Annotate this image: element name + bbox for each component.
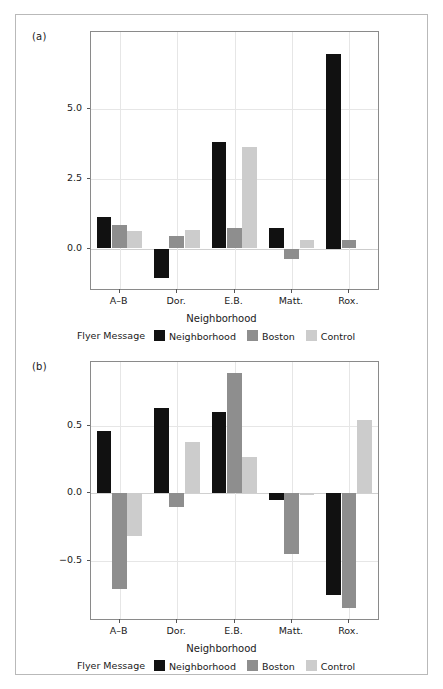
- x-axis-tick-mark: [348, 289, 349, 293]
- x-axis-tick-label: Matt.: [261, 625, 321, 636]
- bar: [300, 493, 315, 494]
- bar: [127, 231, 142, 248]
- legend-swatch-icon: [306, 330, 317, 341]
- bar: [185, 230, 200, 248]
- legend-entry: Boston: [247, 660, 295, 672]
- bar: [242, 457, 257, 494]
- bar: [212, 142, 227, 249]
- bar: [154, 249, 169, 278]
- legend-swatch-icon: [306, 660, 317, 671]
- bar: [342, 240, 357, 248]
- gridline-vertical: [349, 32, 350, 289]
- bar: [185, 442, 200, 493]
- y-axis-tick-label: 0.5: [42, 419, 82, 430]
- legend-label: Control: [321, 331, 355, 342]
- legend-label: Neighborhood: [169, 661, 236, 672]
- y-axis-tick-label: 2.5: [42, 172, 82, 183]
- y-axis-tick-mark: [87, 108, 90, 109]
- bar: [212, 412, 227, 493]
- x-axis-tick-mark: [291, 619, 292, 623]
- gridline-vertical: [292, 362, 293, 619]
- legend-entry: Control: [306, 660, 355, 672]
- x-axis-tick-label: E.B.: [204, 625, 264, 636]
- x-axis-title-b: Neighborhood: [16, 643, 427, 654]
- chart-panel-a: (a) 0.02.55.0A–BDor.E.B.Matt.Rox. Neighb…: [16, 15, 427, 343]
- bar: [300, 240, 315, 248]
- legend-label: Boston: [262, 661, 295, 672]
- bar: [284, 249, 299, 259]
- bar: [342, 493, 357, 608]
- legend-label: Boston: [262, 331, 295, 342]
- figure-panel-container: (a) 0.02.55.0A–BDor.E.B.Matt.Rox. Neighb…: [15, 14, 428, 675]
- legend-title: Flyer Message: [77, 660, 145, 671]
- legend-swatch-icon: [247, 660, 258, 671]
- bar: [97, 431, 112, 493]
- legend-swatch-icon: [154, 660, 165, 671]
- x-axis-tick-label: A–B: [89, 295, 149, 306]
- bar: [357, 249, 372, 250]
- x-axis-tick-label: E.B.: [204, 295, 264, 306]
- x-axis-tick-label: Dor.: [146, 625, 206, 636]
- legend-label: Neighborhood: [169, 331, 236, 342]
- panel-label-b: (b): [32, 361, 47, 372]
- bar: [357, 420, 372, 493]
- y-axis-tick-label: 5.0: [42, 102, 82, 113]
- gridline-vertical: [120, 32, 121, 289]
- bar: [326, 493, 341, 594]
- legend-swatch-icon: [154, 330, 165, 341]
- bar: [112, 225, 127, 249]
- y-axis-tick-mark: [87, 492, 90, 493]
- y-axis-tick-mark: [87, 178, 90, 179]
- y-axis-tick-mark: [87, 425, 90, 426]
- gridline-vertical: [177, 32, 178, 289]
- legend-a: Flyer MessageNeighborhoodBostonControl: [16, 329, 427, 342]
- plot-area-a: [90, 31, 379, 290]
- x-axis-tick-label: Rox.: [318, 295, 378, 306]
- x-axis-tick-label: Rox.: [318, 625, 378, 636]
- bar: [227, 228, 242, 248]
- y-axis-tick-label: 0.0: [42, 242, 82, 253]
- y-axis-tick-label: 0.0: [42, 486, 82, 497]
- legend-entry: Neighborhood: [154, 330, 236, 342]
- bar: [127, 493, 142, 536]
- legend-entry: Neighborhood: [154, 660, 236, 672]
- legend-b: Flyer MessageNeighborhoodBostonControl: [16, 659, 427, 672]
- bar: [154, 408, 169, 493]
- legend-entry: Control: [306, 330, 355, 342]
- x-axis-tick-mark: [119, 289, 120, 293]
- x-axis-tick-mark: [291, 289, 292, 293]
- x-axis-tick-label: Matt.: [261, 295, 321, 306]
- bar: [97, 217, 112, 248]
- x-axis-tick-label: Dor.: [146, 295, 206, 306]
- bar: [112, 493, 127, 589]
- legend-entry: Boston: [247, 330, 295, 342]
- y-axis-tick-label: −0.5: [42, 554, 82, 565]
- gridline-vertical: [235, 32, 236, 289]
- x-axis-tick-mark: [119, 619, 120, 623]
- bar: [169, 493, 184, 507]
- y-axis-tick-mark: [87, 248, 90, 249]
- x-axis-title-a: Neighborhood: [16, 313, 427, 324]
- panel-label-a: (a): [32, 31, 47, 42]
- x-axis-tick-label: A–B: [89, 625, 149, 636]
- x-axis-tick-mark: [348, 619, 349, 623]
- chart-panel-b: (b) −0.50.00.5A–BDor.E.B.Matt.Rox. Neigh…: [16, 345, 427, 673]
- x-axis-tick-mark: [234, 289, 235, 293]
- bar: [326, 54, 341, 249]
- bar: [242, 147, 257, 248]
- legend-title: Flyer Message: [77, 330, 145, 341]
- bar: [269, 493, 284, 500]
- bar: [169, 236, 184, 249]
- bar: [284, 493, 299, 554]
- y-axis-tick-mark: [87, 560, 90, 561]
- x-axis-tick-mark: [176, 289, 177, 293]
- legend-swatch-icon: [247, 330, 258, 341]
- bar: [269, 228, 284, 249]
- plot-area-b: [90, 361, 379, 620]
- gridline-vertical: [177, 362, 178, 619]
- x-axis-tick-mark: [176, 619, 177, 623]
- legend-label: Control: [321, 661, 355, 672]
- bar: [227, 373, 242, 493]
- x-axis-tick-mark: [234, 619, 235, 623]
